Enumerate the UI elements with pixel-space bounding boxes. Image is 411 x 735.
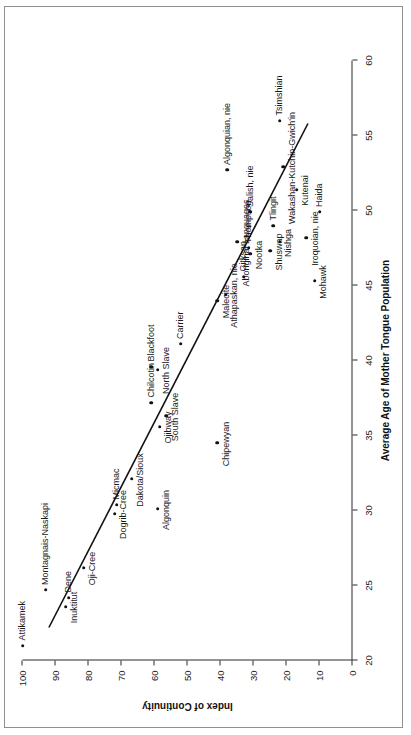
data-point[interactable]: [113, 511, 116, 514]
y-tick-label: 40: [215, 670, 226, 681]
data-point[interactable]: [114, 502, 117, 505]
data-point-label: Dene: [63, 570, 72, 592]
data-point-label: Kutenai: [300, 175, 309, 206]
data-point[interactable]: [67, 595, 70, 598]
data-point-label: Nootka: [254, 240, 263, 269]
data-point[interactable]: [43, 588, 46, 591]
y-tick: [21, 660, 22, 665]
data-point[interactable]: [271, 223, 274, 226]
x-tick-label: 40: [362, 355, 373, 366]
x-tick-label: 60: [362, 55, 373, 66]
x-tick: [352, 434, 357, 435]
y-tick-label: 0: [347, 670, 358, 675]
x-tick-label: 30: [362, 505, 373, 516]
data-point-label: Dakota/Sioux: [135, 453, 144, 507]
x-tick-label: 25: [362, 580, 373, 591]
data-point[interactable]: [20, 643, 23, 646]
y-tick-label: 30: [248, 670, 259, 681]
data-point-label: South Slave: [170, 392, 179, 441]
y-tick: [219, 660, 220, 665]
data-point[interactable]: [235, 240, 238, 243]
data-point[interactable]: [81, 565, 84, 568]
x-tick: [352, 359, 357, 360]
data-point[interactable]: [317, 210, 320, 213]
x-tick: [352, 59, 357, 60]
data-point[interactable]: [129, 477, 132, 480]
data-point[interactable]: [278, 240, 281, 243]
page-frame-border: 202530354045505560 010203040506070809010…: [4, 6, 403, 728]
data-point[interactable]: [294, 187, 297, 190]
data-point-label: Mohawk: [318, 265, 327, 299]
data-point-label: Athapaskan, nie: [229, 263, 238, 328]
data-point[interactable]: [156, 507, 159, 510]
data-point[interactable]: [223, 292, 226, 295]
x-tick-label: 35: [362, 430, 373, 441]
y-tick-label: 50: [182, 670, 193, 681]
data-point-label: Algonquian, nie: [222, 102, 231, 164]
x-tick-label: 55: [362, 130, 373, 141]
data-point[interactable]: [281, 165, 284, 168]
x-tick: [352, 584, 357, 585]
data-point-label: Salish, nie: [245, 165, 254, 207]
data-point-label: Oji-Cree: [87, 551, 96, 585]
data-point-label: Nishga: [283, 228, 292, 256]
x-tick-label: 45: [362, 280, 373, 291]
rotated-figure-container: 202530354045505560 010203040506070809010…: [4, 6, 403, 728]
data-point-label: Tlingit: [268, 196, 277, 220]
data-point-label: Chipewyan: [221, 421, 230, 466]
x-tick: [352, 509, 357, 510]
y-tick-label: 20: [281, 670, 292, 681]
page-canvas: 202530354045505560 010203040506070809010…: [0, 0, 411, 735]
y-tick-label: 60: [149, 670, 160, 681]
x-tick-label: 50: [362, 205, 373, 216]
y-tick: [318, 660, 319, 665]
x-tick: [352, 284, 357, 285]
y-tick-label: 70: [116, 670, 127, 681]
data-point-label: Blackfoot: [146, 324, 155, 361]
data-point-label: Montagnais-Naskapi: [40, 502, 49, 584]
data-point[interactable]: [149, 364, 152, 367]
data-point-label: Tsimshian: [274, 75, 283, 115]
data-point[interactable]: [149, 400, 152, 403]
data-point[interactable]: [268, 249, 271, 252]
data-point[interactable]: [278, 118, 281, 121]
data-point-label: Shuswap: [274, 233, 283, 270]
data-point-label: Haida: [314, 183, 323, 207]
data-point[interactable]: [312, 279, 315, 282]
y-tick: [120, 660, 121, 665]
y-tick: [351, 660, 352, 665]
data-point-label: Algonquin: [161, 489, 170, 529]
y-tick: [285, 660, 286, 665]
x-tick: [352, 659, 357, 660]
data-point[interactable]: [63, 604, 66, 607]
data-point[interactable]: [248, 210, 251, 213]
data-point[interactable]: [179, 342, 182, 345]
data-point-label: Carrier: [175, 311, 184, 339]
y-tick: [153, 660, 154, 665]
y-tick: [252, 660, 253, 665]
x-tick-label: 20: [362, 655, 373, 666]
data-point-label: Inuktitut: [69, 591, 78, 623]
y-tick: [54, 660, 55, 665]
y-tick-label: 100: [17, 670, 28, 686]
y-tick-label: 90: [50, 670, 61, 681]
data-point[interactable]: [215, 298, 218, 301]
data-point-label: North Slave: [161, 346, 170, 393]
scatter-plot: 202530354045505560 010203040506070809010…: [22, 60, 352, 660]
y-axis-title: Index of Continuity: [142, 701, 233, 712]
y-tick: [186, 660, 187, 665]
data-point[interactable]: [215, 441, 218, 444]
data-point[interactable]: [156, 367, 159, 370]
y-tick-label: 10: [314, 670, 325, 681]
data-point[interactable]: [225, 168, 228, 171]
data-point-label: Iroquoian, nie: [310, 211, 319, 266]
data-point[interactable]: [157, 424, 160, 427]
data-point-label: Micmac: [111, 468, 120, 499]
data-point[interactable]: [304, 235, 307, 238]
data-point-label: Wakashan-Kutchin-Gwich'in: [287, 112, 296, 224]
y-tick: [87, 660, 88, 665]
y-tick-label: 80: [83, 670, 94, 681]
x-axis-title: Average Age of Mother Tongue Population: [379, 259, 390, 460]
data-point[interactable]: [164, 414, 167, 417]
x-tick: [352, 134, 357, 135]
